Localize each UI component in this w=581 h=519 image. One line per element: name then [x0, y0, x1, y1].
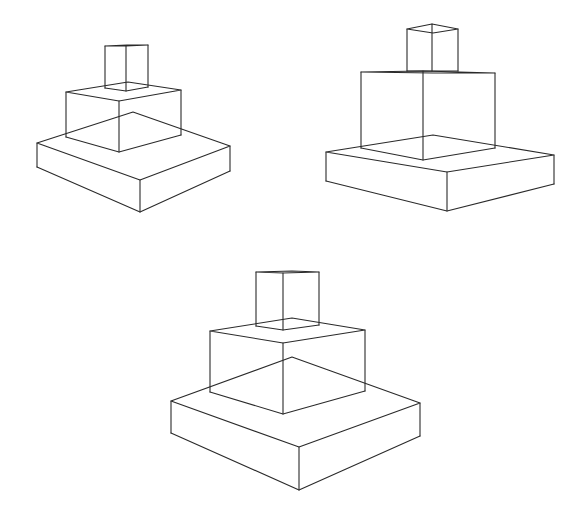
middle-block-bottom-edges — [210, 391, 365, 414]
middle-block-bottom-edges — [361, 148, 495, 160]
base-slab-bottom-edges — [171, 433, 420, 490]
top-cube-bottom-edges — [256, 325, 319, 330]
figure-stacked-boxes-bottom — [171, 271, 420, 490]
middle-block — [66, 82, 181, 152]
base-slab-top-face — [171, 357, 420, 447]
base-slab — [326, 135, 554, 211]
top-cube — [407, 24, 458, 71]
figure-stacked-boxes-left — [37, 45, 230, 212]
base-slab-bottom-edges — [37, 167, 230, 212]
figure-stacked-boxes-right — [326, 24, 554, 211]
middle-block — [361, 71, 495, 160]
middle-block-top-face — [66, 82, 181, 101]
top-cube-top-face — [256, 271, 319, 273]
base-slab — [171, 357, 420, 490]
middle-block-top-face — [210, 318, 365, 343]
line-drawing — [0, 0, 581, 519]
base-slab-top-face — [326, 135, 554, 172]
middle-block — [210, 318, 365, 414]
drawing-canvas — [0, 0, 581, 519]
middle-block-bottom-edges — [66, 135, 181, 152]
base-slab-bottom-edges — [326, 181, 554, 211]
